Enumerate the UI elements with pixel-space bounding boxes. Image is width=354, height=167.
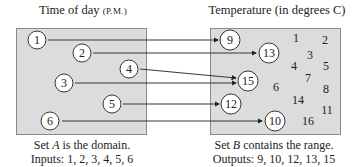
range-element: 7 — [305, 71, 311, 86]
range-circled-element: 9 — [227, 33, 233, 48]
range-element: 5 — [323, 59, 329, 74]
domain-element: 6 — [47, 114, 53, 129]
domain-element: 3 — [61, 76, 67, 91]
range-element: 11 — [321, 103, 333, 118]
set-variable: A — [52, 138, 59, 152]
range-element: 8 — [323, 82, 329, 97]
arrow-4-to-15 — [140, 69, 236, 78]
range-circled-element: 12 — [225, 97, 237, 112]
range-outputs: Outputs: 9, 10, 12, 13, 15 — [192, 152, 354, 166]
range-element: 16 — [302, 114, 314, 129]
range-circled-element: 13 — [263, 46, 275, 61]
range-element: 3 — [307, 48, 313, 63]
range-element: 2 — [322, 33, 328, 48]
caption-text: contains the range. — [240, 138, 333, 152]
domain-element: 5 — [109, 97, 115, 112]
caption-text: Set — [34, 138, 52, 152]
range-element: 1 — [293, 31, 299, 46]
domain-caption-line1: Set A is the domain. — [0, 138, 164, 152]
caption-text: is the domain. — [60, 138, 131, 152]
range-caption: Set B contains the range. Outputs: 9, 10… — [192, 138, 354, 166]
range-circled-element: 15 — [242, 74, 254, 89]
range-element: 6 — [273, 80, 279, 95]
range-caption-line1: Set B contains the range. — [192, 138, 354, 152]
caption-text: Set — [215, 138, 233, 152]
domain-element: 4 — [126, 62, 132, 77]
domain-caption: Set A is the domain. Inputs: 1, 2, 3, 4,… — [0, 138, 164, 166]
range-circled-element: 10 — [269, 114, 281, 129]
domain-element: 1 — [34, 33, 40, 48]
domain-element: 2 — [79, 46, 85, 61]
domain-inputs: Inputs: 1, 2, 3, 4, 5, 6 — [0, 152, 164, 166]
range-element: 4 — [291, 59, 297, 74]
range-element: 14 — [292, 93, 304, 108]
